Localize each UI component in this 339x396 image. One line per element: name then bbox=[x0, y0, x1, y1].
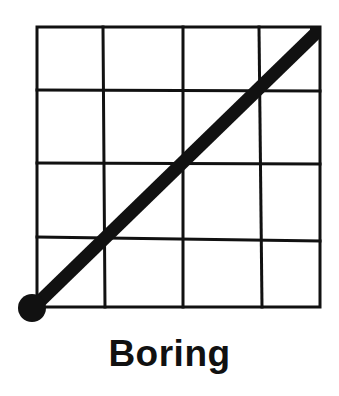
grid-vline-3 bbox=[259, 27, 262, 307]
grid-vline-1 bbox=[103, 27, 105, 307]
start-point-marker bbox=[18, 294, 46, 322]
trend-line-end-cap bbox=[310, 26, 321, 37]
boring-diagram: Boring bbox=[0, 0, 339, 396]
trend-line bbox=[35, 33, 316, 306]
diagram-caption: Boring bbox=[0, 335, 339, 372]
grid-hline-3 bbox=[37, 237, 320, 241]
grid-hline-1 bbox=[37, 90, 320, 91]
